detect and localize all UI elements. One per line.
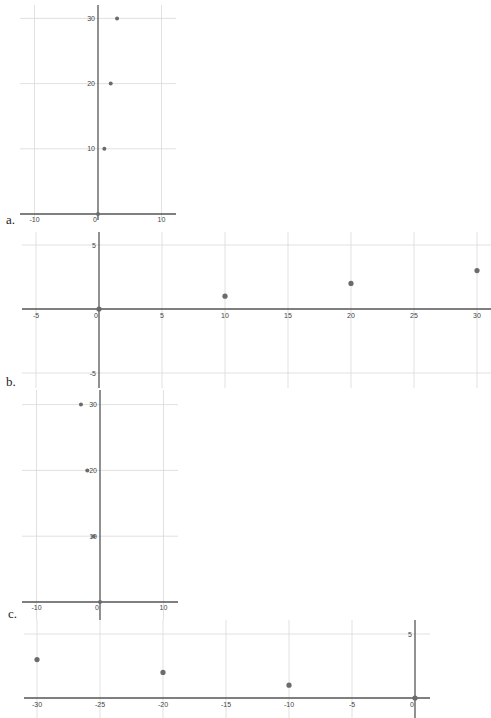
data-point <box>115 16 119 20</box>
data-point <box>222 294 227 299</box>
x-tick-label: -25 <box>95 701 105 708</box>
y-tick-label: 20 <box>87 80 95 87</box>
chart-b: -50510152025305-5 <box>22 232 491 388</box>
x-tick-label: 20 <box>347 312 355 319</box>
data-point <box>474 268 479 273</box>
data-point <box>98 600 102 604</box>
y-tick-label: 5 <box>92 242 96 249</box>
y-tick-label: 5 <box>408 631 412 638</box>
x-tick-label: 10 <box>160 604 168 611</box>
panel-label-b: b. <box>6 374 16 390</box>
y-tick-label: 30 <box>87 15 95 22</box>
x-tick-label: 0 <box>410 701 414 708</box>
panel-label-c: c. <box>8 606 17 622</box>
data-point <box>85 468 89 472</box>
data-point <box>92 534 96 538</box>
data-point <box>348 281 353 286</box>
x-tick-label: -30 <box>32 701 42 708</box>
data-point <box>96 212 100 216</box>
x-tick-label: 25 <box>410 312 418 319</box>
data-point <box>160 670 165 675</box>
x-tick-label: 10 <box>221 312 229 319</box>
data-point <box>34 657 39 662</box>
x-tick-label: 5 <box>160 312 164 319</box>
data-point <box>79 403 83 407</box>
x-tick-label: -20 <box>158 701 168 708</box>
x-tick-label: 0 <box>94 312 98 319</box>
x-tick-label: -10 <box>31 604 41 611</box>
y-tick-label: 10 <box>87 145 95 152</box>
y-tick-label: 20 <box>89 467 97 474</box>
data-point <box>109 82 113 86</box>
data-point <box>96 306 101 311</box>
y-tick-label: 30 <box>89 401 97 408</box>
x-tick-label: -5 <box>33 312 39 319</box>
data-point <box>102 147 106 151</box>
data-point <box>286 683 291 688</box>
x-tick-label: -10 <box>29 216 39 223</box>
panel-label-a: a. <box>6 212 15 228</box>
chart-c: -10010102030 <box>22 390 178 620</box>
data-point <box>412 695 417 700</box>
chart-a: -10010102030 <box>20 5 176 223</box>
x-tick-label: -5 <box>349 701 355 708</box>
x-tick-label: 30 <box>473 312 481 319</box>
x-tick-label: 10 <box>158 216 166 223</box>
x-tick-label: 0 <box>95 604 99 611</box>
x-tick-label: 15 <box>284 312 292 319</box>
x-tick-label: -10 <box>284 701 294 708</box>
scatter-plots: -10010102030-50510152025305-5-1001010203… <box>0 0 491 718</box>
x-tick-label: -15 <box>221 701 231 708</box>
x-tick-label: 0 <box>93 216 97 223</box>
y-tick-label: -5 <box>90 370 96 377</box>
chart-d: -30-25-20-15-10-505 <box>24 620 430 718</box>
